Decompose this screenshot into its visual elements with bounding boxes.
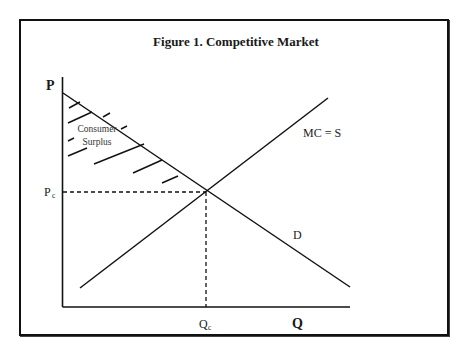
equilibrium-quantity-label: Q xyxy=(199,317,208,331)
equilibrium-quantity-subscript: c xyxy=(208,323,212,332)
supply-curve-label: MC = S xyxy=(303,126,341,140)
consumer-surplus-label-line2: Surplus xyxy=(82,137,111,147)
equilibrium-price-label: P xyxy=(44,185,51,199)
equilibrium-price-subscript: c xyxy=(52,191,56,200)
consumer-surplus-label-line1: Consumer xyxy=(77,124,117,134)
y-axis-label: P xyxy=(46,78,55,93)
competitive-market-diagram: Figure 1. Competitive Market P Q Consume… xyxy=(0,0,473,356)
x-axis-label: Q xyxy=(292,316,303,331)
demand-curve-label: D xyxy=(293,228,302,242)
figure-title: Figure 1. Competitive Market xyxy=(153,34,319,49)
supply-curve xyxy=(80,98,328,288)
